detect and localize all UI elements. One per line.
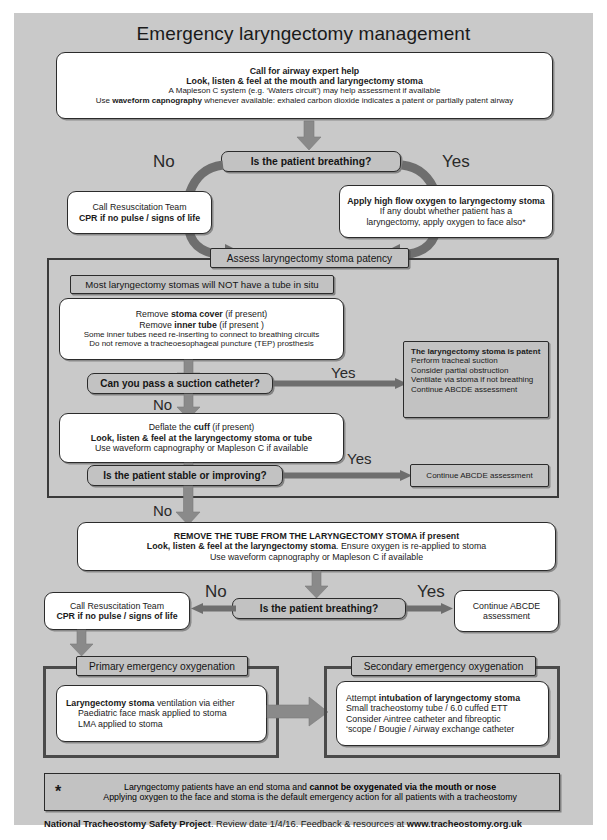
continue-abcde-mid-label: Continue ABCDE assessment (426, 471, 532, 480)
assess-laryngectomy-stoma-patency-header: Assess laryngectomy stoma patency (210, 248, 409, 268)
deflate-line1: Deflate the cuff (if present) (149, 422, 255, 432)
flowchart-sheet: Emergency laryngectomy management Call f… (14, 13, 593, 825)
remove-tube-line1: REMOVE THE TUBE FROM THE LARYNGECTOMY ST… (174, 531, 459, 541)
oxygen-line2: If any doubt whether patient has a (380, 206, 513, 216)
decision-stable-label: Is the patient stable or improving? (103, 470, 266, 481)
remove-line2: Remove inner tube (if present ) (139, 320, 264, 330)
no-tube-note-label: Most laryngectomy stomas will NOT have a… (85, 279, 318, 290)
secondary-line2: Small tracheostomy tube / 6.0 cuffed ETT (346, 703, 508, 713)
label-yes-stable: Yes (347, 451, 371, 466)
arrow-yes-to-continue-abcde-bottom (406, 603, 454, 615)
resus-top-line1: Call Resuscitation Team (92, 202, 186, 212)
footnote-box: * Laryngectomy patients have an end stom… (44, 773, 560, 811)
decision-is-the-patient-breathing-bottom[interactable]: Is the patient breathing? (232, 598, 406, 619)
continue-abcde-bottom-line2: assessment (483, 611, 530, 621)
call-resuscitation-team-box-top: Call Resuscitation Team CPR if no pulse … (67, 191, 212, 234)
remove-stoma-cover-box: Remove stoma cover (if present) Remove i… (59, 298, 344, 360)
airway-help-line3: A Mapleson C system (e.g. ‘Waters circui… (169, 86, 441, 95)
arrow-no-to-resus-box-bottom (190, 603, 236, 615)
patent-line2: Perform tracheal suction (411, 356, 498, 365)
airway-help-line4: Use waveform capnography whenever availa… (96, 96, 514, 105)
primary-line3: LMA applied to stoma (66, 719, 163, 729)
page-title: Emergency laryngectomy management (14, 23, 593, 45)
remove-tube-line3: Use waveform capnography or Mapleson C i… (210, 552, 423, 562)
primary-oxygenation-header-label: Primary emergency oxygenation (89, 661, 235, 672)
apply-high-flow-oxygen-box: Apply high flow oxygen to laryngectomy s… (339, 185, 553, 238)
call-for-airway-expert-help-box: Call for airway expert help Look, listen… (56, 52, 553, 119)
asterisk-marker: * (55, 783, 61, 801)
remove-line4: Do not remove a tracheoesophageal punctu… (89, 339, 314, 348)
label-no-top: No (153, 153, 175, 170)
secondary-oxygenation-header-label: Secondary emergency oxygenation (364, 661, 524, 672)
deflate-line3: Use waveform capnography or Mapleson C i… (95, 443, 308, 453)
decision-is-patient-stable-or-improving[interactable]: Is the patient stable or improving? (87, 465, 283, 486)
decision-breathing-bottom-label: Is the patient breathing? (260, 603, 378, 614)
credit-org: National Tracheostomy Safety Project (44, 819, 211, 829)
continue-abcde-assessment-bottom-box: Continue ABCDE assessment (454, 590, 559, 632)
arrow-down-to-breathing-decision (296, 121, 322, 151)
arrow-primary-to-secondary-oxygenation (267, 697, 329, 727)
patent-line1: The laryngectomy stoma is patent (411, 347, 540, 356)
decision-can-you-pass-suction-catheter[interactable]: Can you pass a suction catheter? (87, 373, 273, 394)
deflate-cuff-box: Deflate the cuff (if present) Look, list… (59, 413, 344, 463)
airway-help-line1: Call for airway expert help (250, 66, 360, 76)
label-no-suction: No (153, 397, 172, 412)
arrow-down-to-primary-oxygenation (70, 630, 94, 657)
stoma-is-patent-box: The laryngectomy stoma is patent Perform… (403, 341, 549, 418)
secondary-emergency-oxygenation-header: Secondary emergency oxygenation (351, 656, 536, 676)
resus-bottom-line2: CPR if no pulse / signs of life (56, 611, 177, 621)
label-no-stable: No (153, 503, 172, 518)
footnote-line2: Applying oxygen to the face and stoma is… (103, 792, 517, 802)
label-no-bottom: No (205, 583, 227, 600)
arrow-no-to-remove-tube-box (176, 486, 202, 526)
remove-line1: Remove stoma cover (if present) (136, 309, 268, 319)
assess-header-label: Assess laryngectomy stoma patency (227, 253, 392, 264)
arrow-yes-to-patent-box (273, 378, 408, 390)
secondary-line1: Attempt intubation of laryngectomy stoma (346, 693, 520, 703)
oxygen-line1: Apply high flow oxygen to laryngectomy s… (347, 196, 544, 206)
secondary-line3: Consider Aintree catheter and fibreoptic (346, 714, 501, 724)
continue-abcde-bottom-line1: Continue ABCDE (473, 601, 540, 611)
most-stomas-no-tube-note: Most laryngectomy stomas will NOT have a… (70, 275, 334, 294)
patent-line5: Continue ABCDE assessment (411, 385, 517, 394)
primary-oxygenation-content-box: Laryngectomy stoma ventilation via eithe… (56, 685, 267, 742)
resus-top-line2: CPR if no pulse / signs of life (79, 213, 200, 223)
credit-mid: . Review date 1/4/16. Feedback & resourc… (211, 819, 407, 829)
remove-line3: Some inner tubes need re-inserting to co… (84, 330, 320, 339)
label-yes-bottom: Yes (417, 583, 445, 600)
secondary-oxygenation-content-box: Attempt intubation of laryngectomy stoma… (336, 681, 549, 746)
decision-suction-label: Can you pass a suction catheter? (100, 378, 260, 389)
credit-line: National Tracheostomy Safety Project. Re… (44, 819, 522, 829)
patent-line4: Ventilate via stoma if not breathing (411, 375, 533, 384)
airway-help-line2: Look, listen & feel at the mouth and lar… (186, 76, 423, 86)
continue-abcde-assessment-mid-box: Continue ABCDE assessment (410, 464, 549, 487)
call-resuscitation-team-box-bottom: Call Resuscitation Team CPR if no pulse … (44, 592, 190, 630)
primary-line1: Laryngectomy stoma ventilation via eithe… (66, 698, 235, 708)
flowchart-page: Emergency laryngectomy management Call f… (0, 0, 607, 840)
arrow-yes-to-continue-abcde-mid (283, 470, 413, 482)
oxygen-line3: laryngectomy, apply oxygen to face also* (366, 217, 525, 227)
primary-emergency-oxygenation-header: Primary emergency oxygenation (76, 656, 248, 676)
credit-url[interactable]: www.tracheostomy.org.uk (407, 819, 522, 829)
arrow-down-to-breathing-decision-bottom (305, 571, 329, 599)
remove-tube-line2: Look, listen & feel at the laryngectomy … (147, 541, 486, 551)
patent-line3: Consider partial obstruction (411, 366, 508, 375)
primary-line2: Paediatric face mask applied to stoma (66, 708, 227, 718)
resus-bottom-line1: Call Resuscitation Team (70, 601, 164, 611)
deflate-line2: Look, listen & feel at the laryngectomy … (91, 433, 312, 443)
secondary-line4: ‘scope / Bougie / Airway exchange cathet… (346, 724, 514, 734)
footnote-line1: Laryngectomy patients have an end stoma … (124, 782, 496, 792)
remove-the-tube-box: REMOVE THE TUBE FROM THE LARYNGECTOMY ST… (77, 522, 556, 571)
